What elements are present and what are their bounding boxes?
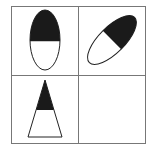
puzzle-figure: [0, 0, 151, 155]
cell-bottom-left-triangle: [28, 80, 62, 137]
cell-top-right-tilted-ellipse: [80, 8, 144, 72]
cell-top-left-ellipse: [30, 10, 60, 70]
